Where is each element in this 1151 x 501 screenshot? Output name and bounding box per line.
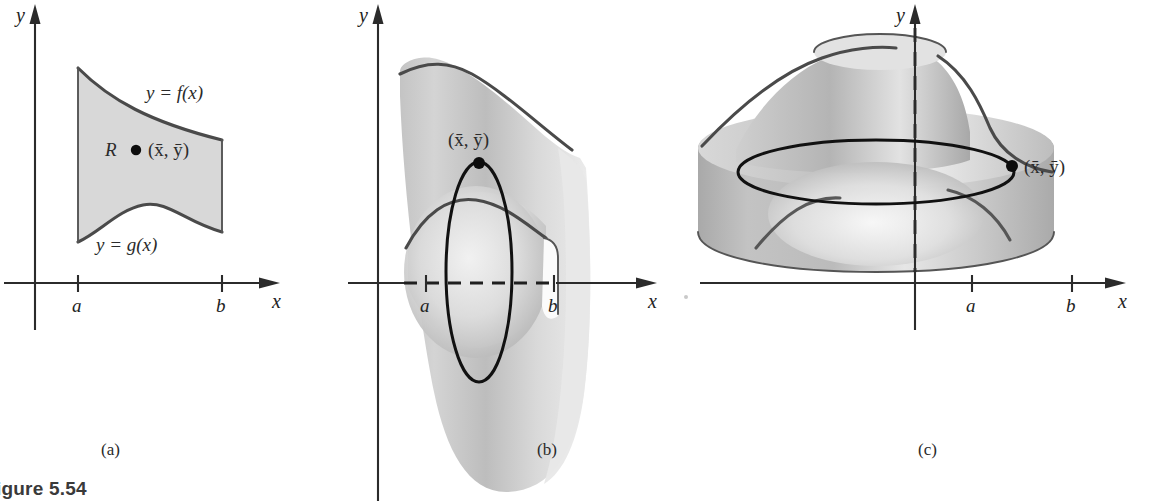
label-lower-curve: y = g(x): [94, 234, 157, 256]
panel-c: y x a b (x̄, ȳ): [680, 0, 1151, 420]
x-axis-label-a: x: [271, 290, 281, 312]
y-axis-label-a: y: [14, 4, 25, 27]
figure-root: y x a b y = f(x) y = g(x) R (x̄, ȳ): [0, 0, 1151, 501]
label-centroid-b: (x̄, ȳ): [448, 129, 489, 151]
centroid-dot-c: [1006, 160, 1018, 172]
y-axis-label-b: y: [357, 4, 368, 27]
centroid-dot-a: [131, 145, 141, 155]
panel-caption-b: (b): [537, 440, 557, 460]
x-axis-arrowhead-b: [636, 278, 657, 289]
panel-a: y x a b y = f(x) y = g(x) R (x̄, ȳ): [0, 0, 300, 420]
label-upper-curve: y = f(x): [144, 82, 203, 104]
figure-caption: igure 5.54: [0, 478, 87, 500]
tick-a-label: a: [72, 295, 82, 316]
x-axis-arrowhead-a: [259, 278, 280, 289]
panel-b: y x a b (x̄, ȳ): [300, 0, 680, 501]
centroid-dot-b: [473, 157, 485, 169]
solid-c-inner-well: [768, 162, 984, 266]
label-region-r: R: [104, 139, 117, 160]
tick-b-label-b: b: [548, 295, 558, 316]
label-centroid-c: (x̄, ȳ): [1024, 156, 1065, 178]
tick-b-label-c: b: [1066, 295, 1076, 316]
y-axis-arrowhead-c: [910, 4, 921, 24]
x-axis-label-c: x: [1117, 290, 1127, 312]
panel-caption-a: (a): [101, 440, 120, 460]
y-axis-arrowhead-a: [30, 4, 41, 24]
print-speck: [684, 295, 688, 299]
label-centroid-a: (x̄, ȳ): [148, 139, 189, 161]
y-axis-label-c: y: [894, 4, 905, 27]
solid-b-inner-bulb: [404, 186, 548, 358]
x-axis-label-b: x: [647, 290, 657, 312]
x-axis-arrowhead-c: [1105, 278, 1126, 289]
tick-b-label: b: [216, 295, 226, 316]
tick-a-label-c: a: [966, 295, 976, 316]
tick-a-label-b: a: [420, 295, 430, 316]
y-axis-arrowhead-b: [373, 4, 384, 24]
panel-caption-c: (c): [918, 440, 937, 460]
